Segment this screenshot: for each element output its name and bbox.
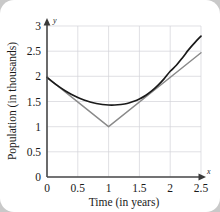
x-tick-label: 2.5 (194, 182, 209, 194)
y-tick-labels: 3 2.5 2 1.5 1 0.5 0 (27, 20, 42, 183)
x-tick-label: 0.5 (71, 182, 86, 194)
x-axis-symbol: x (206, 167, 211, 176)
y-tick-label: 2 (35, 70, 41, 82)
x-tick-labels: 0 0.5 1 1.5 2 2.5 (44, 182, 208, 194)
figure-card: 3 2.5 2 1.5 1 0.5 0 0 0.5 1 1.5 2 2.5 y … (0, 0, 220, 212)
x-tick-label: 2 (167, 182, 173, 194)
y-tick-label: 3 (35, 20, 41, 32)
population-vs-time-chart: 3 2.5 2 1.5 1 0.5 0 0 0.5 1 1.5 2 2.5 y … (0, 0, 220, 212)
y-axis-title: Population (in thousands) (6, 42, 19, 160)
x-axis-title: Time (in years) (89, 196, 160, 209)
y-tick-label: 0 (35, 171, 41, 183)
x-tick-label: 1 (106, 182, 112, 194)
y-tick-label: 0.5 (27, 146, 42, 158)
y-tick-label: 1 (35, 121, 41, 133)
y-tick-label: 1.5 (27, 96, 42, 108)
x-tick-label: 0 (44, 182, 50, 194)
x-tick-label: 1.5 (132, 182, 147, 194)
y-tick-label: 2.5 (27, 45, 42, 57)
y-axis-symbol: y (52, 16, 57, 25)
